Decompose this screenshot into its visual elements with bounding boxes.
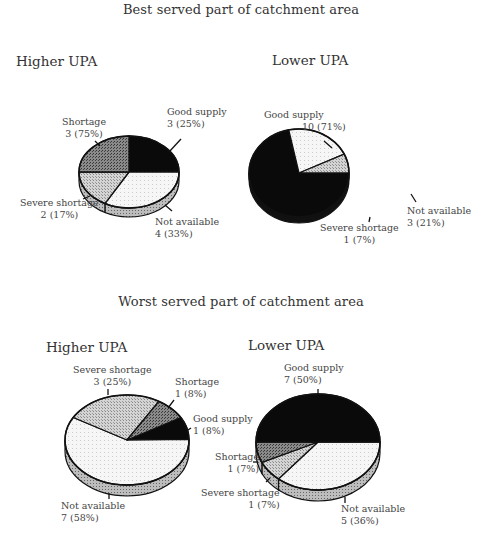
label-worst-lower-good-supply: Good supply7 (50%) — [284, 362, 344, 386]
label-worst-higher-not-available: Not available7 (58%) — [61, 500, 125, 524]
label-worst-lower-shortage: Shortage1 (7%) — [215, 451, 259, 475]
pie-worst-higher-upa — [65, 395, 189, 496]
label-best-lower-severe-shortage: Severe shortage1 (7%) — [320, 222, 399, 246]
pie-slice-good-supply — [256, 394, 380, 442]
label-best-higher-severe-shortage: Severe shortage2 (17%) — [20, 197, 99, 221]
label-worst-higher-shortage: Shortage1 (8%) — [175, 376, 219, 400]
label-worst-lower-not-available: Not available5 (36%) — [341, 503, 405, 527]
label-worst-higher-good-supply: Good supply1 (8%) — [193, 413, 253, 437]
label-best-higher-shortage: Shortage3 (75%) — [62, 116, 106, 140]
label-best-lower-not-available: Not available3 (21%) — [407, 205, 471, 229]
label-best-lower-good-supply: Good supply10 (71%) — [264, 109, 346, 133]
label-worst-higher-severe-shortage: Severe shortage3 (25%) — [73, 364, 152, 388]
label-best-higher-good-supply: Good supply3 (25%) — [167, 106, 227, 130]
pie-worst-lower-upa — [256, 394, 380, 501]
label-worst-lower-severe-shortage: Severe shortage1 (7%) — [201, 487, 280, 511]
label-best-higher-not-available: Not available4 (33%) — [155, 216, 219, 240]
pie-best-lower-upa — [249, 129, 349, 223]
